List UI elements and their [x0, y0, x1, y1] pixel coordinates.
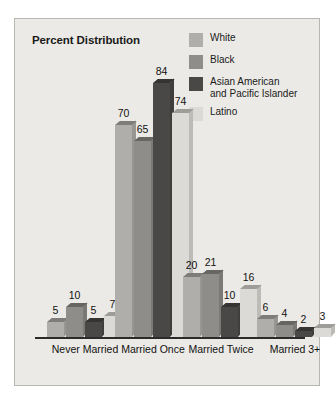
bar-value-label: 3 — [320, 310, 326, 322]
bar: 16 — [240, 289, 257, 337]
bar-front-face — [47, 322, 64, 337]
bar: 6 — [257, 319, 274, 337]
bar-front-face — [295, 331, 312, 337]
bar-value-label: 5 — [91, 304, 97, 316]
bar: 5 — [85, 322, 102, 337]
legend-item-white: White — [189, 32, 315, 47]
plot-area: 51057Never Married70658474Married Once20… — [31, 55, 311, 375]
bar-value-label: 65 — [137, 123, 149, 135]
bar-front-face — [66, 307, 83, 337]
bar-value-label: 10 — [69, 289, 81, 301]
x-axis-category-label: Married Twice — [188, 343, 253, 355]
bar-front-face — [134, 141, 151, 337]
x-axis-category-label: Married Once — [121, 343, 185, 355]
bar-value-label: 10 — [224, 289, 236, 301]
bar-value-label: 84 — [156, 65, 168, 77]
bar-value-label: 20 — [186, 259, 198, 271]
bar-front-face — [257, 319, 274, 337]
bar-front-face — [314, 328, 331, 337]
bar-value-label: 21 — [205, 256, 217, 268]
bar-group: 20211016Married Twice — [183, 65, 259, 337]
bar: 10 — [221, 307, 238, 337]
legend-label-white: White — [210, 32, 236, 44]
bar: 70 — [115, 125, 132, 337]
x-axis-category-label: Married 3+ — [270, 343, 320, 355]
bar-front-face — [115, 125, 132, 337]
bar-front-face — [276, 325, 293, 337]
bar-front-face — [183, 277, 200, 337]
bar: 5 — [47, 322, 64, 337]
bar-value-label: 6 — [263, 301, 269, 313]
bar-front-face — [221, 307, 238, 337]
bar-front-face — [85, 322, 102, 337]
bar-group: 70658474Married Once — [115, 65, 191, 337]
x-axis-line — [35, 337, 305, 339]
bar-value-label: 4 — [282, 307, 288, 319]
bar: 10 — [66, 307, 83, 337]
bar-front-face — [202, 274, 219, 337]
bar: 21 — [202, 274, 219, 337]
bar-value-label: 2 — [301, 313, 307, 325]
bar: 20 — [183, 277, 200, 337]
bar-front-face — [240, 289, 257, 337]
legend-swatch-white — [189, 33, 203, 47]
bar-value-label: 16 — [243, 271, 255, 283]
bar: 65 — [134, 141, 151, 337]
bar: 3 — [314, 328, 331, 337]
bar-group: 6423Married 3+ — [257, 65, 333, 337]
bar: 84 — [153, 83, 170, 337]
bar: 2 — [295, 331, 312, 337]
chart-title: Percent Distribution — [32, 34, 140, 46]
bar-value-label: 5 — [53, 304, 59, 316]
x-axis-category-label: Never Married — [52, 343, 119, 355]
bar-value-label: 70 — [118, 107, 130, 119]
bar-front-face — [153, 83, 170, 337]
bar-group: 51057Never Married — [47, 65, 123, 337]
bar: 4 — [276, 325, 293, 337]
chart-panel: Percent Distribution White Black Asian A… — [14, 18, 320, 386]
